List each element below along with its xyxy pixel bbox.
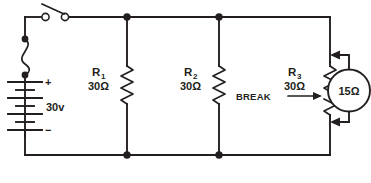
resistor-r2 xyxy=(213,17,225,155)
battery-minus-sign: − xyxy=(45,124,51,136)
ohmmeter-reading: 15Ω xyxy=(338,85,359,97)
resistor-r1 xyxy=(121,17,133,155)
switch-blade xyxy=(42,4,64,14)
r1-value-label: 30Ω xyxy=(88,80,109,92)
spst-switch[interactable] xyxy=(42,4,69,21)
flexible-lead-wire xyxy=(22,39,29,75)
node-dot-flex-top xyxy=(22,36,29,43)
switch-terminal-left xyxy=(42,13,49,20)
battery-voltage-label: 30v xyxy=(46,101,65,113)
r1-zigzag xyxy=(121,66,133,104)
ohmmeter: 15Ω xyxy=(328,51,370,127)
ohmmeter-lower-probe-arrow xyxy=(330,118,340,127)
r2-ref-label: R xyxy=(184,66,193,78)
r1-ref-label: R xyxy=(92,66,101,78)
r3-value-label: 30Ω xyxy=(284,80,305,92)
schematic-canvas: + − 30v R 1 30Ω R 2 30Ω R 3 xyxy=(0,0,371,183)
break-label: BREAK xyxy=(236,91,271,102)
switch-terminal-right xyxy=(61,13,68,20)
ohmmeter-upper-probe-arrow xyxy=(330,51,340,60)
battery-plus-sign: + xyxy=(45,76,51,88)
break-annotation xyxy=(288,92,322,100)
r2-zigzag xyxy=(213,66,225,104)
break-arrow-head xyxy=(313,92,322,100)
r2-value-label: 30Ω xyxy=(180,80,201,92)
r3-ref-label: R xyxy=(288,66,297,78)
circuit-diagram: + − 30v R 1 30Ω R 2 30Ω R 3 xyxy=(0,0,371,183)
battery-symbol xyxy=(8,75,42,137)
